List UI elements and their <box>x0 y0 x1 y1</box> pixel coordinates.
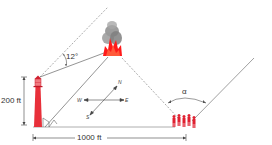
distance-label: 1000 ft <box>77 134 101 142</box>
angle-arc-alpha <box>168 98 206 103</box>
sightline-fire-to-group <box>122 58 180 120</box>
compass-rose-icon <box>84 86 124 115</box>
compass-n-label: N <box>118 80 122 85</box>
height-label: 200 ft <box>1 97 21 105</box>
line-group-direction <box>192 58 254 121</box>
angle-alpha-label: α <box>182 88 187 96</box>
line-ground-to-fire <box>45 57 108 127</box>
lighthouse-icon <box>34 76 43 128</box>
diagram-canvas: 200 ft 1000 ft 12° α N S E W <box>0 0 272 145</box>
compass-e-label: E <box>125 98 128 103</box>
compass-s-label: S <box>86 115 89 120</box>
angle-12-label: 12° <box>66 53 78 61</box>
dashed-reference-line <box>40 7 108 77</box>
compass-w-label: W <box>77 98 82 103</box>
fire-smoke-icon <box>102 21 122 56</box>
diagram-svg <box>0 0 272 145</box>
